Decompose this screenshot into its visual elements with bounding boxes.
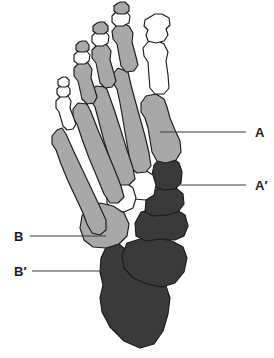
bone-distal-phalanx-1 [144, 14, 170, 43]
bone-distal-phalanx-5 [58, 77, 69, 87]
label-b: B [14, 229, 24, 244]
bone-proximal-phalanx-4 [74, 61, 97, 104]
bone-proximal-phalanx-3 [92, 43, 116, 88]
label-a-prime: A′ [255, 178, 268, 193]
foot-skeleton-diagram: A A′ B B′ [0, 0, 274, 358]
bone-proximal-phalanx-1 [143, 40, 169, 94]
label-b-prime: B′ [14, 264, 27, 279]
bone-distal-phalanx-4 [76, 41, 89, 52]
label-a: A [255, 125, 265, 140]
bone-distal-phalanx-2 [114, 2, 129, 14]
diagram-canvas: A A′ B B′ [0, 0, 274, 358]
bone-proximal-phalanx-2 [112, 23, 138, 72]
bone-distal-phalanx-3 [93, 22, 108, 34]
